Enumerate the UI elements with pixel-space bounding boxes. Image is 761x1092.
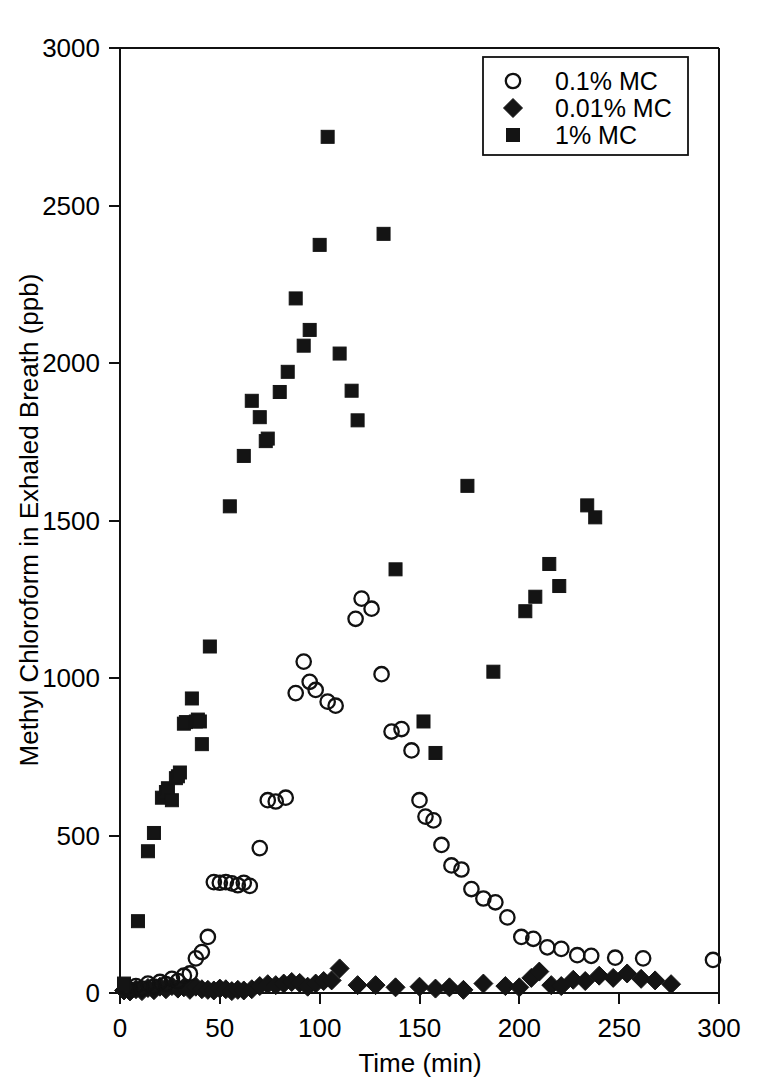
- x-tick-label: 300: [697, 1013, 740, 1043]
- data-point-filled-square: [195, 738, 208, 751]
- data-point-filled-square: [185, 692, 198, 705]
- y-tick-labels: 050010001500200025003000: [42, 33, 100, 1008]
- data-point-filled-square: [351, 414, 364, 427]
- data-point-open-circle: [500, 910, 514, 924]
- data-point-open-circle: [253, 841, 267, 855]
- data-point-filled-square: [147, 826, 160, 839]
- data-point-open-circle: [296, 654, 310, 668]
- data-point-filled-square: [131, 915, 144, 928]
- data-point-filled-square: [345, 384, 358, 397]
- data-point-filled-square: [589, 511, 602, 524]
- data-point-filled-square: [519, 605, 532, 618]
- data-point-filled-diamond: [646, 971, 665, 990]
- x-tick-label: 100: [298, 1013, 341, 1043]
- data-point-filled-square: [543, 557, 556, 570]
- scatter-plot: 050100150200250300 050010001500200025003…: [0, 0, 761, 1092]
- data-point-filled-square: [253, 411, 266, 424]
- data-point-filled-square: [417, 715, 430, 728]
- data-point-filled-square: [553, 580, 566, 593]
- data-point-filled-square: [193, 715, 206, 728]
- legend-label: 0.1% MC: [555, 67, 658, 95]
- data-point-filled-square: [389, 563, 402, 576]
- data-point-filled-square: [117, 977, 130, 990]
- data-point-open-circle: [608, 951, 622, 965]
- data-point-filled-square: [173, 766, 186, 779]
- data-point-open-circle: [289, 686, 303, 700]
- data-point-filled-square: [581, 499, 594, 512]
- data-point-open-circle: [394, 722, 408, 736]
- y-axis-title: Methyl Chloroform in Exhaled Breath (ppb…: [14, 274, 44, 767]
- y-tick-label: 3000: [42, 33, 100, 63]
- legend-label: 1% MC: [555, 121, 637, 149]
- y-tick-label: 2500: [42, 191, 100, 221]
- data-point-open-circle: [384, 724, 398, 738]
- data-point-filled-square: [487, 665, 500, 678]
- data-point-filled-square: [223, 500, 236, 513]
- data-point-filled-diamond: [662, 975, 681, 994]
- x-tick-label: 200: [498, 1013, 541, 1043]
- chart-legend: 0.1% MC0.01% MC1% MC: [483, 57, 688, 155]
- x-tick-label: 50: [205, 1013, 234, 1043]
- x-axis-title: Time (min): [358, 1048, 481, 1078]
- data-point-filled-square: [303, 323, 316, 336]
- x-tick-labels: 050100150200250300: [113, 1013, 741, 1043]
- data-point-open-circle: [404, 743, 418, 757]
- data-point-open-circle: [584, 949, 598, 963]
- data-point-open-circle: [348, 612, 362, 626]
- series-1mc: [117, 130, 601, 990]
- legend-marker-filled-square: [507, 129, 520, 142]
- data-point-open-circle: [540, 940, 554, 954]
- data-point-open-circle: [201, 930, 215, 944]
- x-tick-label: 0: [113, 1013, 127, 1043]
- plot-frame: [120, 48, 719, 993]
- legend-label: 0.01% MC: [555, 94, 672, 122]
- data-point-open-circle: [434, 838, 448, 852]
- figure-container: 050100150200250300 050010001500200025003…: [0, 0, 761, 1092]
- data-point-filled-square: [429, 746, 442, 759]
- data-point-open-circle: [636, 951, 650, 965]
- data-point-filled-square: [313, 238, 326, 251]
- x-tick-label: 150: [398, 1013, 441, 1043]
- data-point-open-circle: [374, 667, 388, 681]
- data-point-filled-square: [141, 845, 154, 858]
- data-point-filled-square: [203, 640, 216, 653]
- data-point-filled-square: [237, 449, 250, 462]
- x-tick-label: 250: [597, 1013, 640, 1043]
- data-point-filled-square: [333, 347, 346, 360]
- data-point-filled-square: [461, 479, 474, 492]
- data-point-filled-diamond: [348, 976, 367, 995]
- data-point-filled-diamond: [454, 980, 473, 999]
- data-point-filled-diamond: [474, 974, 493, 993]
- data-point-open-circle: [412, 793, 426, 807]
- y-tick-label: 0: [86, 978, 100, 1008]
- data-point-filled-square: [377, 227, 390, 240]
- data-point-open-circle: [570, 948, 584, 962]
- data-point-open-circle: [554, 942, 568, 956]
- y-tick-label: 500: [57, 821, 100, 851]
- data-point-filled-diamond: [366, 976, 385, 995]
- data-point-filled-square: [321, 130, 334, 143]
- data-point-filled-square: [289, 292, 302, 305]
- data-point-filled-square: [297, 339, 310, 352]
- y-tick-label: 1000: [42, 663, 100, 693]
- y-tick-label: 1500: [42, 506, 100, 536]
- y-tick-label: 2000: [42, 348, 100, 378]
- data-point-filled-square: [273, 385, 286, 398]
- data-point-filled-square: [281, 365, 294, 378]
- data-point-open-circle: [364, 602, 378, 616]
- data-point-filled-square: [261, 432, 274, 445]
- data-point-filled-square: [245, 394, 258, 407]
- data-point-filled-square: [165, 794, 178, 807]
- data-point-filled-square: [529, 590, 542, 603]
- data-series-group: [114, 130, 720, 1001]
- axis-ticks: [109, 48, 719, 1004]
